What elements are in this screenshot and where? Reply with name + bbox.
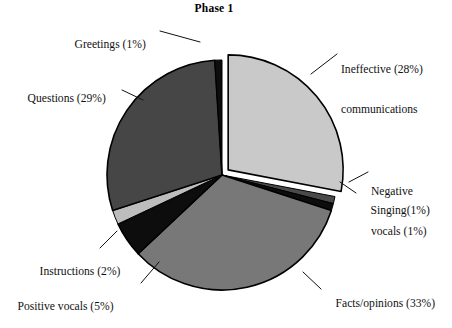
slice-label-singing: Singing(1%) xyxy=(359,191,430,231)
slice-label-ineffective-line2: communications xyxy=(341,103,423,116)
leader-line-greetings xyxy=(160,31,200,42)
slice-label-positive-vocals-text: Positive vocals (5%) xyxy=(18,300,114,313)
slice-label-questions: Questions (29%) xyxy=(16,79,106,119)
pie-chart-figure: Phase 1 Greeting xyxy=(0,0,452,328)
leader-line-ineffective xyxy=(311,54,337,74)
slice-label-greetings-text: Greetings (1%) xyxy=(75,38,146,51)
leader-line-facts-opinions xyxy=(303,272,321,289)
leader-line-negative-vocals xyxy=(349,172,368,182)
slice-label-ineffective-communications: Ineffective (28%) communications xyxy=(341,36,423,143)
slice-label-facts-opinions: Facts/opinions (33%) xyxy=(324,284,435,324)
leader-line-instructions xyxy=(100,231,117,248)
slice-label-instructions-text: Instructions (2%) xyxy=(40,265,121,278)
slice-label-ineffective-line1: Ineffective (28%) xyxy=(341,63,423,76)
slice-label-greetings: Greetings (1%) xyxy=(63,25,146,65)
slice-label-questions-text: Questions (29%) xyxy=(28,92,106,105)
slice-label-facts-opinions-text: Facts/opinions (33%) xyxy=(336,297,436,310)
slice-ineffective-communications xyxy=(228,55,343,192)
slice-label-positive-vocals: Positive vocals (5%) xyxy=(6,287,114,327)
slice-label-singing-text: Singing(1%) xyxy=(371,204,430,217)
